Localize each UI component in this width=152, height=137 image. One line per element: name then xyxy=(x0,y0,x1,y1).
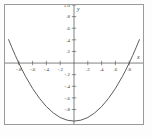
x-tick-label: -.2 xyxy=(57,67,63,72)
x-axis-label: x xyxy=(137,54,140,60)
x-tick-label: .2 xyxy=(86,67,90,72)
plot-frame: -.8-.6-.4-.2.2.4.6.8-.8-.6-.4-.2.2.4.6.8… xyxy=(4,4,144,125)
x-tick-label: -.6 xyxy=(30,67,36,72)
y-tick-label: 1.0 xyxy=(64,5,71,8)
parabola-plot: -.8-.6-.4-.2.2.4.6.8-.8-.6-.4-.2.2.4.6.8… xyxy=(5,5,143,124)
y-tick-label: .4 xyxy=(66,38,70,43)
y-tick-label: -.2 xyxy=(65,72,71,77)
y-tick-label: -.8 xyxy=(65,107,71,112)
x-tick-label: -.4 xyxy=(44,67,50,72)
x-tick-label: .4 xyxy=(100,67,104,72)
figure-container: -.8-.6-.4-.2.2.4.6.8-.8-.6-.4-.2.2.4.6.8… xyxy=(0,0,152,137)
y-axis-label: y xyxy=(77,6,80,12)
y-tick-label: .2 xyxy=(66,49,70,54)
x-tick-label: -.8 xyxy=(16,67,22,72)
y-tick-label: -.6 xyxy=(65,96,71,101)
y-tick-label: -.4 xyxy=(65,84,71,89)
y-tick-label: .6 xyxy=(66,26,70,31)
x-tick-label: .6 xyxy=(114,67,118,72)
y-tick-label: .8 xyxy=(66,14,70,19)
x-tick-label: .8 xyxy=(127,67,131,72)
